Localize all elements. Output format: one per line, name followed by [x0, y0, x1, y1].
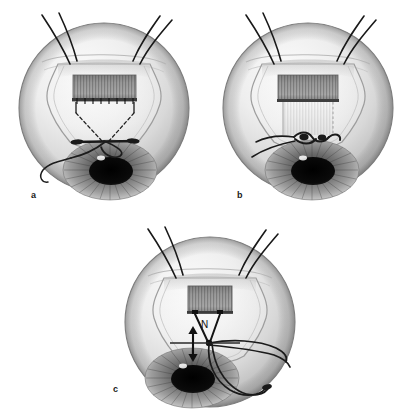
iris-b — [265, 140, 359, 200]
graft-c — [187, 286, 233, 314]
knot-core2-b — [318, 135, 326, 141]
knot-core-b — [299, 134, 308, 140]
panel-label-b: b — [237, 190, 243, 200]
surgical-figure: a — [0, 0, 411, 416]
graft-a — [72, 75, 137, 104]
iris-a — [63, 140, 157, 200]
panel-label-c: c — [113, 384, 118, 394]
node-label-n: N — [201, 319, 208, 330]
graft-b — [277, 75, 339, 135]
